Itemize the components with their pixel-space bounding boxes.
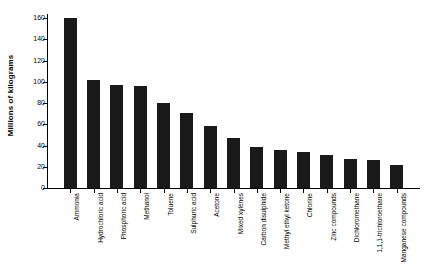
y-axis-tick-label: 120 xyxy=(33,56,45,65)
x-axis-tick-label: Acetone xyxy=(213,193,220,267)
bar xyxy=(274,150,287,188)
x-axis-tick-label: Manganese compounds xyxy=(400,193,407,267)
y-axis-tick-label: 40 xyxy=(37,141,45,150)
y-axis-title: Millions of kilograms xyxy=(0,0,22,190)
x-axis-tick-label: Carbon disulphide xyxy=(260,193,267,267)
y-axis-tick-label: 80 xyxy=(37,98,45,107)
bar xyxy=(250,147,263,188)
bar xyxy=(87,80,100,188)
y-axis-title-label: Millions of kilograms xyxy=(7,54,16,136)
bar xyxy=(157,103,170,188)
y-axis-tick-label: 100 xyxy=(33,77,45,86)
x-axis-tick-label: Phosphoric acid xyxy=(120,193,127,267)
bar xyxy=(134,86,147,188)
x-axis-tick-label: Hydrochloric acid xyxy=(97,193,104,267)
x-axis-tick-label: Ammonia xyxy=(73,193,80,267)
plot-area: 020406080100120140160 xyxy=(47,18,420,188)
bar xyxy=(390,165,403,188)
x-axis-tick-label: Chlorine xyxy=(306,193,313,267)
bar xyxy=(367,160,380,188)
bar xyxy=(64,18,77,188)
bar xyxy=(180,113,193,188)
x-axis-tick-label: Dichloromethane xyxy=(353,193,360,267)
bar xyxy=(297,152,310,188)
bar xyxy=(320,155,333,188)
chart-screenshot: Millions of kilograms 020406080100120140… xyxy=(0,0,427,270)
y-axis-line xyxy=(47,14,48,188)
x-axis-tick-label: Methanol xyxy=(143,193,150,267)
y-axis-tick-label: 160 xyxy=(33,13,45,22)
y-axis-tick-label: 60 xyxy=(37,119,45,128)
x-axis-tick-label: Mixed xylenes xyxy=(237,193,244,267)
x-axis-tick-label: 1,1,1-trichloroethane xyxy=(376,193,383,267)
x-axis-tick-label: Methyl ethyl ketone xyxy=(283,193,290,267)
x-axis-tick-label: Sulphuric acid xyxy=(190,193,197,267)
x-axis-tick-label: Zinc compounds xyxy=(330,193,337,267)
x-axis-labels: AmmoniaHydrochloric acidPhosphoric acidM… xyxy=(47,193,420,270)
bar xyxy=(110,85,123,188)
y-axis-tick-label: 20 xyxy=(37,162,45,171)
bar xyxy=(344,159,357,188)
y-axis-tick-label: 140 xyxy=(33,34,45,43)
x-axis-tick-label: Toluene xyxy=(167,193,174,267)
y-axis-tick-label: 0 xyxy=(41,183,45,192)
bar xyxy=(204,126,217,188)
bar xyxy=(227,138,240,188)
